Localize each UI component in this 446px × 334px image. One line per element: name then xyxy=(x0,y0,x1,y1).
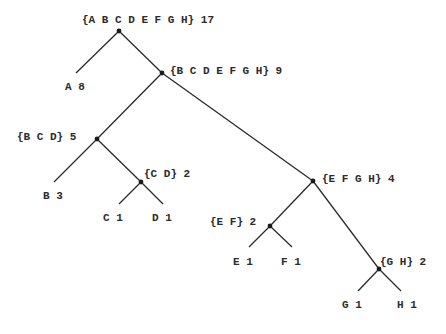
edge-ef-f xyxy=(270,226,292,247)
node-dot-cd xyxy=(139,180,144,185)
edge-bcd-b xyxy=(54,139,97,182)
internal-node-label-bcdefgh: {B C D E F G H} 9 xyxy=(170,65,282,77)
internal-node-label-bcd: {B C D} 5 xyxy=(17,131,77,143)
huffman-tree-diagram: {A B C D E F G H} 17A 8{B C D E F G H} 9… xyxy=(0,0,446,334)
node-dot-bcdefgh xyxy=(160,71,165,76)
node-dot-ef xyxy=(268,224,273,229)
edge-bcd-cd xyxy=(97,139,141,182)
node-dot-efgh xyxy=(311,179,316,184)
edge-cd-c xyxy=(119,182,141,204)
edge-gh-h xyxy=(379,269,401,291)
edge-abcdefgh-bcdefgh xyxy=(119,31,162,73)
tree-node-labels: {A B C D E F G H} 17A 8{B C D E F G H} 9… xyxy=(17,14,426,311)
leaf-node-label-a: A 8 xyxy=(65,81,85,93)
edge-bcdefgh-efgh xyxy=(162,73,313,181)
internal-node-label-ef: {E F} 2 xyxy=(210,216,256,228)
edge-cd-d xyxy=(141,182,163,204)
internal-node-label-cd: {C D} 2 xyxy=(144,168,190,180)
leaf-node-label-b: B 3 xyxy=(43,190,63,202)
edge-abcdefgh-a xyxy=(76,31,119,73)
edge-ef-e xyxy=(249,226,270,247)
internal-node-label-gh: {G H} 2 xyxy=(380,256,426,268)
node-dot-bcd xyxy=(95,137,100,142)
leaf-node-label-c: C 1 xyxy=(103,212,123,224)
edge-bcdefgh-bcd xyxy=(97,73,162,139)
leaf-node-label-g: G 1 xyxy=(342,299,362,311)
internal-node-label-abcdefgh: {A B C D E F G H} 17 xyxy=(82,14,214,26)
leaf-node-label-e: E 1 xyxy=(233,256,253,268)
internal-node-label-efgh: {E F G H} 4 xyxy=(322,173,395,185)
leaf-node-label-f: F 1 xyxy=(281,256,301,268)
leaf-node-label-d: D 1 xyxy=(152,212,172,224)
leaf-node-label-h: H 1 xyxy=(397,299,417,311)
edge-efgh-ef xyxy=(270,181,313,226)
node-dot-abcdefgh xyxy=(117,29,122,34)
edge-efgh-gh xyxy=(313,181,379,269)
edge-gh-g xyxy=(358,269,379,291)
